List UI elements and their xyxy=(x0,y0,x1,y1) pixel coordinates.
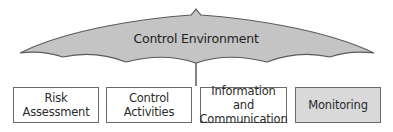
control-environment-label: Control Environment xyxy=(96,31,296,46)
box-label-line2: Assessment xyxy=(23,105,90,119)
risk-assessment-box: Risk Assessment xyxy=(13,87,99,123)
information-communication-box: Information and Communication xyxy=(200,87,287,123)
box-label-line1: Information and xyxy=(199,84,287,112)
monitoring-box: Monitoring xyxy=(295,87,381,123)
box-label-line2: Communication xyxy=(199,112,287,126)
coso-umbrella-diagram: Control Environment Risk Assessment Cont… xyxy=(0,0,393,132)
box-label-line1: Risk xyxy=(23,91,90,105)
box-label-line1: Control xyxy=(124,91,174,105)
box-label-line2: Activities xyxy=(124,105,174,119)
box-label-line1: Monitoring xyxy=(308,98,368,112)
control-activities-box: Control Activities xyxy=(106,87,192,123)
